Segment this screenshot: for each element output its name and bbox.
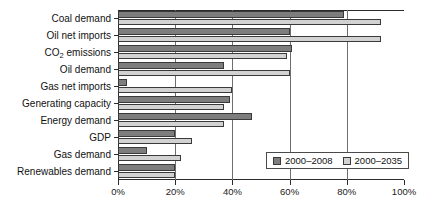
bar-2000-2035 bbox=[118, 36, 381, 43]
bar-2000-2035 bbox=[118, 155, 181, 162]
bar-2000-2035 bbox=[118, 19, 381, 26]
x-tick bbox=[175, 180, 176, 185]
category-label: Renewables demand bbox=[17, 164, 111, 179]
legend-swatch-icon bbox=[273, 157, 281, 165]
bar-row: Energy demand bbox=[118, 112, 404, 129]
legend-label: 2000–2035 bbox=[355, 155, 403, 166]
bar-chart: 0%20%40%60%80%100% Coal demandOil net im… bbox=[0, 0, 441, 215]
x-tick bbox=[118, 180, 119, 185]
category-label: Energy demand bbox=[40, 113, 111, 128]
chart-legend: 2000–2008 2000–2035 bbox=[266, 152, 409, 169]
category-label: Oil net imports bbox=[47, 28, 111, 43]
bar-row: CO2 emissions bbox=[118, 44, 404, 61]
legend-item-2000-2008: 2000–2008 bbox=[273, 155, 333, 166]
bar-2000-2008 bbox=[118, 164, 175, 171]
x-tick-label: 40% bbox=[223, 186, 242, 197]
x-tick-label: 0% bbox=[111, 186, 125, 197]
x-tick bbox=[290, 180, 291, 185]
bar-2000-2008 bbox=[118, 147, 147, 154]
bar-2000-2008 bbox=[118, 28, 290, 35]
bar-2000-2035 bbox=[118, 87, 232, 94]
bar-2000-2035 bbox=[118, 172, 175, 179]
x-tick-label: 100% bbox=[392, 186, 416, 197]
bar-2000-2008 bbox=[118, 79, 127, 86]
bar-2000-2035 bbox=[118, 121, 224, 128]
bar-row: Coal demand bbox=[118, 10, 404, 27]
bar-row: Oil net imports bbox=[118, 27, 404, 44]
category-label: Gas demand bbox=[54, 147, 111, 162]
bar-2000-2035 bbox=[118, 104, 224, 111]
legend-swatch-icon bbox=[343, 157, 351, 165]
legend-label: 2000–2008 bbox=[285, 155, 333, 166]
category-label: Generating capacity bbox=[22, 96, 111, 111]
category-label: CO2 emissions bbox=[45, 45, 111, 63]
category-label: GDP bbox=[89, 130, 111, 145]
category-label: Oil demand bbox=[60, 62, 111, 77]
x-tick bbox=[232, 180, 233, 185]
category-label: Coal demand bbox=[52, 11, 111, 26]
bar-row: GDP bbox=[118, 129, 404, 146]
bar-2000-2008 bbox=[118, 96, 230, 103]
x-tick bbox=[347, 180, 348, 185]
x-tick bbox=[404, 180, 405, 185]
x-tick-label: 80% bbox=[337, 186, 356, 197]
bar-2000-2008 bbox=[118, 45, 292, 52]
bar-2000-2035 bbox=[118, 70, 290, 77]
legend-item-2000-2035: 2000–2035 bbox=[343, 155, 403, 166]
bar-2000-2008 bbox=[118, 11, 344, 18]
bar-row: Oil demand bbox=[118, 61, 404, 78]
bar-row: Gas net imports bbox=[118, 78, 404, 95]
bar-2000-2008 bbox=[118, 113, 252, 120]
x-tick-label: 20% bbox=[166, 186, 185, 197]
x-tick-label: 60% bbox=[280, 186, 299, 197]
bar-2000-2008 bbox=[118, 62, 224, 69]
bar-2000-2035 bbox=[118, 53, 287, 60]
category-label: Gas net imports bbox=[40, 79, 111, 94]
bar-2000-2008 bbox=[118, 130, 175, 137]
bar-row: Generating capacity bbox=[118, 95, 404, 112]
bar-2000-2035 bbox=[118, 138, 192, 145]
